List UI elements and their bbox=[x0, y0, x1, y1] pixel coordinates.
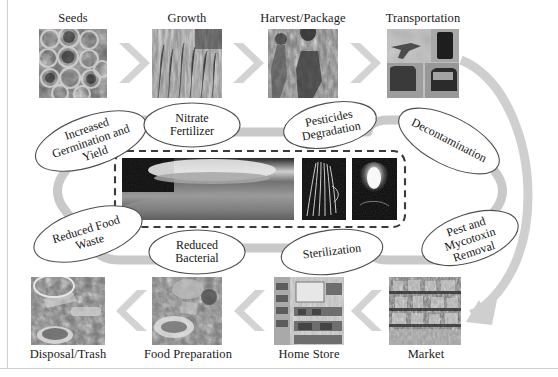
plasma-panel-dashed-border bbox=[115, 151, 405, 227]
ellipse-increased-germination-and-yield bbox=[28, 98, 154, 183]
plasma-jet-wide-photo bbox=[122, 158, 294, 220]
label-increased-germination-and-yield: Increased Germination and Yield bbox=[28, 104, 154, 180]
label-line-2: Degradation bbox=[283, 116, 380, 147]
caption-growth: Growth bbox=[152, 11, 222, 26]
caption-harvest-package: Harvest/Package bbox=[259, 11, 347, 26]
chevron-home-store-to-food-prep bbox=[234, 290, 265, 331]
plasma-plume-photo bbox=[352, 158, 397, 220]
caption-disposal-trash: Disposal/Trash bbox=[23, 347, 113, 362]
disposal-trash-photo bbox=[31, 277, 105, 345]
label-line-2: Germination and bbox=[32, 116, 150, 167]
plasma-food-chain-figure: Seeds Growth Harvest/Package bbox=[0, 0, 558, 377]
caption-transportation: Transportation bbox=[376, 11, 470, 26]
transportation-photo bbox=[387, 29, 459, 98]
transport-to-market-curved-arrow bbox=[461, 60, 528, 325]
label-line-2: Bacterial bbox=[147, 252, 247, 265]
label-sterilization: Sterilization bbox=[282, 239, 383, 264]
chevron-growth-to-harvest bbox=[233, 43, 264, 83]
ellipse-reduced-food-waste bbox=[27, 195, 148, 274]
food-preparation-photo bbox=[152, 277, 222, 345]
label-line-1: Reduced Food bbox=[30, 207, 143, 253]
label-line-2: Waste bbox=[33, 219, 146, 265]
ellipse-reduced-bacterial bbox=[149, 230, 245, 274]
ellipse-pest-and-mycotoxin-removal bbox=[415, 200, 525, 277]
label-reduced-bacterial: Reduced Bacterial bbox=[147, 239, 247, 265]
caption-home-store: Home Store bbox=[268, 347, 350, 362]
chevron-harvest-to-transport bbox=[350, 43, 381, 83]
ellipse-sterilization bbox=[279, 224, 386, 280]
label-line-1: Decontamination bbox=[396, 109, 502, 171]
label-decontamination: Decontamination bbox=[396, 109, 502, 171]
ellipse-nitrate-fertilizer bbox=[144, 103, 240, 147]
label-line-2: Mycotoxin bbox=[422, 218, 517, 260]
chevron-market-to-home-store bbox=[351, 290, 382, 331]
label-line-3: Yield bbox=[36, 128, 154, 179]
label-pesticides-degradation: Pesticides Degradation bbox=[280, 103, 379, 147]
label-pest-and-mycotoxin-removal: Pest and Mycotoxin Removal bbox=[418, 206, 521, 273]
caption-food-preparation: Food Preparation bbox=[141, 347, 235, 362]
seeds-photo bbox=[39, 29, 107, 98]
label-line-1: Increased bbox=[28, 104, 146, 155]
label-nitrate-fertilizer: Nitrate Fertilizer bbox=[142, 112, 242, 138]
ellipse-decontamination bbox=[389, 95, 509, 188]
home-store-photo bbox=[274, 277, 344, 345]
label-line-1: Reduced bbox=[147, 239, 247, 252]
label-line-1: Pesticides bbox=[280, 103, 377, 134]
ellipse-pesticides-degradation bbox=[280, 94, 381, 155]
label-line-1: Sterilization bbox=[282, 239, 383, 264]
label-reduced-food-waste: Reduced Food Waste bbox=[30, 207, 147, 265]
benefit-ring-band bbox=[58, 120, 503, 260]
figure-left-border bbox=[7, 0, 8, 369]
label-line-1: Pest and bbox=[418, 206, 513, 248]
plasma-filament-photo bbox=[302, 158, 346, 220]
caption-market: Market bbox=[392, 347, 460, 362]
label-line-3: Removal bbox=[426, 231, 521, 273]
chevron-food-prep-to-disposal bbox=[116, 290, 147, 331]
chevron-seeds-to-growth bbox=[119, 43, 150, 83]
label-line-1: Nitrate bbox=[142, 112, 242, 125]
growth-photo bbox=[152, 29, 222, 98]
caption-seeds: Seeds bbox=[39, 11, 107, 26]
market-photo bbox=[389, 277, 461, 345]
figure-bottom-border bbox=[0, 368, 558, 369]
label-line-2: Fertilizer bbox=[142, 125, 242, 138]
harvest-package-photo bbox=[268, 29, 338, 98]
